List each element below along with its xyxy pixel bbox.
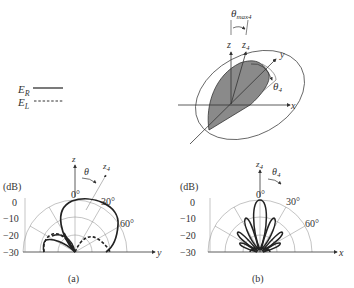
z-axis-label: z <box>226 39 231 50</box>
svg-text:0: 0 <box>12 197 17 208</box>
theta-max-label: θmax4 <box>231 7 252 21</box>
svg-text:0: 0 <box>190 197 195 208</box>
svg-text:EL: EL <box>17 96 30 111</box>
svg-text:−20: −20 <box>3 230 19 241</box>
caption-a: (a) <box>68 273 79 285</box>
svg-text:60°: 60° <box>305 218 319 229</box>
z4-axis-label: z4 <box>241 39 250 52</box>
caption-b: (b) <box>252 273 264 285</box>
polar-grid <box>208 200 312 252</box>
theta-max-arc <box>233 27 245 29</box>
svg-text:60°: 60° <box>120 218 134 229</box>
polar-plot-b: x z4 θ4 0° 30° 60° (dB) 0 −10 −20 −30 (b… <box>180 159 344 285</box>
theta-arrow <box>82 178 96 183</box>
theta4-arrow <box>268 179 281 184</box>
h-axis-label: x <box>338 247 344 258</box>
svg-text:30°: 30° <box>286 196 300 207</box>
svg-text:−30: −30 <box>180 247 196 258</box>
h-axis-label: y <box>156 247 162 258</box>
x-axis-label: x <box>290 100 296 111</box>
unit-label: (dB) <box>3 181 21 193</box>
unit-label: (dB) <box>180 181 198 193</box>
svg-text:−10: −10 <box>180 213 196 224</box>
svg-text:−30: −30 <box>3 247 19 258</box>
y-axis-label: y <box>279 49 285 60</box>
figure: ER EL x y z z4 θmax4 θ4 <box>0 0 354 288</box>
polar-plot-a: y z z4 θ 0° 30° 60° (dB) 0 −10 −20 −30 (… <box>3 154 162 285</box>
z4-axis-label: z4 <box>255 159 264 171</box>
svg-text:0°: 0° <box>71 189 80 200</box>
theta-label: θ <box>84 166 89 177</box>
radiation-3d-diagram: x y z z4 θmax4 θ4 <box>178 7 320 158</box>
theta4-label: θ4 <box>273 80 282 94</box>
z4-axis-label: z4 <box>102 161 111 173</box>
svg-text:−20: −20 <box>180 230 196 241</box>
theta4-label: θ4 <box>272 166 281 179</box>
svg-text:0°: 0° <box>256 189 265 200</box>
svg-text:−10: −10 <box>3 213 19 224</box>
z-axis-label: z <box>71 154 76 164</box>
legend-item-el: EL <box>17 96 63 111</box>
legend: ER EL <box>17 83 63 111</box>
